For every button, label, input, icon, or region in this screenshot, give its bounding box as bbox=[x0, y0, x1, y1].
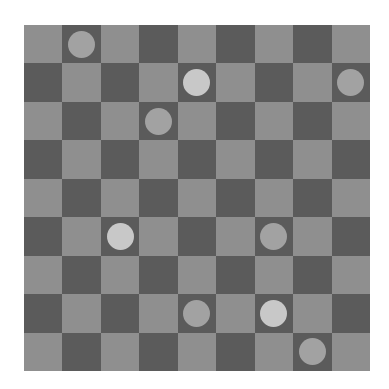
dark-square-r1-c4[interactable] bbox=[178, 63, 216, 101]
light-square-r3-c3[interactable] bbox=[139, 140, 177, 178]
dark-square-r5-c6[interactable] bbox=[255, 217, 293, 255]
dark-square-r5-c8[interactable] bbox=[332, 217, 370, 255]
light-square-r3-c1[interactable] bbox=[62, 140, 100, 178]
light-square-r2-c4[interactable] bbox=[178, 102, 216, 140]
dark-square-r0-c5[interactable] bbox=[216, 25, 254, 63]
dark-square-r7-c4[interactable] bbox=[178, 294, 216, 332]
light-square-r6-c8[interactable] bbox=[332, 256, 370, 294]
light-square-r6-c4[interactable] bbox=[178, 256, 216, 294]
light-square-r0-c0[interactable] bbox=[24, 25, 62, 63]
light-square-r2-c8[interactable] bbox=[332, 102, 370, 140]
dark-square-r7-c0[interactable] bbox=[24, 294, 62, 332]
dark-square-r8-c3[interactable] bbox=[139, 333, 177, 371]
light-square-r0-c2[interactable] bbox=[101, 25, 139, 63]
dark-square-r3-c0[interactable] bbox=[24, 140, 62, 178]
light-square-r3-c5[interactable] bbox=[216, 140, 254, 178]
dark-square-r3-c4[interactable] bbox=[178, 140, 216, 178]
dark-square-r5-c2[interactable] bbox=[101, 217, 139, 255]
light-square-r4-c4[interactable] bbox=[178, 179, 216, 217]
dark-square-r6-c5[interactable] bbox=[216, 256, 254, 294]
light-square-r4-c6[interactable] bbox=[255, 179, 293, 217]
dark-square-r7-c6[interactable] bbox=[255, 294, 293, 332]
dark-square-r4-c5[interactable] bbox=[216, 179, 254, 217]
light-square-r7-c5[interactable] bbox=[216, 294, 254, 332]
gray-piece[interactable] bbox=[260, 223, 287, 250]
dark-square-r4-c3[interactable] bbox=[139, 179, 177, 217]
light-square-r4-c2[interactable] bbox=[101, 179, 139, 217]
light-square-r2-c0[interactable] bbox=[24, 102, 62, 140]
gray-piece[interactable] bbox=[299, 338, 326, 365]
dark-square-r0-c1[interactable] bbox=[62, 25, 100, 63]
light-square-r1-c5[interactable] bbox=[216, 63, 254, 101]
dark-square-r3-c8[interactable] bbox=[332, 140, 370, 178]
light-square-r6-c2[interactable] bbox=[101, 256, 139, 294]
light-square-r4-c0[interactable] bbox=[24, 179, 62, 217]
dark-square-r1-c6[interactable] bbox=[255, 63, 293, 101]
light-square-r6-c6[interactable] bbox=[255, 256, 293, 294]
gray-piece[interactable] bbox=[337, 69, 364, 96]
dark-square-r3-c6[interactable] bbox=[255, 140, 293, 178]
dark-square-r7-c2[interactable] bbox=[101, 294, 139, 332]
dark-square-r0-c3[interactable] bbox=[139, 25, 177, 63]
light-square-r4-c8[interactable] bbox=[332, 179, 370, 217]
light-square-r3-c7[interactable] bbox=[293, 140, 331, 178]
dark-square-r2-c3[interactable] bbox=[139, 102, 177, 140]
gray-piece[interactable] bbox=[68, 31, 95, 58]
dark-square-r6-c1[interactable] bbox=[62, 256, 100, 294]
light-piece[interactable] bbox=[260, 300, 287, 327]
dark-square-r2-c5[interactable] bbox=[216, 102, 254, 140]
light-piece[interactable] bbox=[183, 69, 210, 96]
dark-square-r1-c0[interactable] bbox=[24, 63, 62, 101]
light-square-r6-c0[interactable] bbox=[24, 256, 62, 294]
game-board bbox=[24, 25, 370, 371]
dark-square-r0-c7[interactable] bbox=[293, 25, 331, 63]
dark-square-r8-c1[interactable] bbox=[62, 333, 100, 371]
dark-square-r5-c4[interactable] bbox=[178, 217, 216, 255]
light-square-r7-c7[interactable] bbox=[293, 294, 331, 332]
light-square-r2-c2[interactable] bbox=[101, 102, 139, 140]
dark-square-r5-c0[interactable] bbox=[24, 217, 62, 255]
light-square-r0-c6[interactable] bbox=[255, 25, 293, 63]
dark-square-r1-c8[interactable] bbox=[332, 63, 370, 101]
dark-square-r8-c7[interactable] bbox=[293, 333, 331, 371]
light-square-r0-c8[interactable] bbox=[332, 25, 370, 63]
light-square-r5-c3[interactable] bbox=[139, 217, 177, 255]
dark-square-r4-c1[interactable] bbox=[62, 179, 100, 217]
dark-square-r4-c7[interactable] bbox=[293, 179, 331, 217]
light-square-r5-c7[interactable] bbox=[293, 217, 331, 255]
dark-square-r1-c2[interactable] bbox=[101, 63, 139, 101]
dark-square-r3-c2[interactable] bbox=[101, 140, 139, 178]
light-square-r8-c4[interactable] bbox=[178, 333, 216, 371]
light-square-r8-c0[interactable] bbox=[24, 333, 62, 371]
light-square-r0-c4[interactable] bbox=[178, 25, 216, 63]
gray-piece[interactable] bbox=[145, 108, 172, 135]
dark-square-r6-c7[interactable] bbox=[293, 256, 331, 294]
light-square-r2-c6[interactable] bbox=[255, 102, 293, 140]
light-square-r5-c5[interactable] bbox=[216, 217, 254, 255]
light-piece[interactable] bbox=[107, 223, 134, 250]
dark-square-r6-c3[interactable] bbox=[139, 256, 177, 294]
light-square-r8-c2[interactable] bbox=[101, 333, 139, 371]
light-square-r1-c7[interactable] bbox=[293, 63, 331, 101]
light-square-r1-c3[interactable] bbox=[139, 63, 177, 101]
dark-square-r2-c1[interactable] bbox=[62, 102, 100, 140]
light-square-r8-c6[interactable] bbox=[255, 333, 293, 371]
dark-square-r2-c7[interactable] bbox=[293, 102, 331, 140]
dark-square-r8-c5[interactable] bbox=[216, 333, 254, 371]
light-square-r5-c1[interactable] bbox=[62, 217, 100, 255]
light-square-r7-c3[interactable] bbox=[139, 294, 177, 332]
dark-square-r7-c8[interactable] bbox=[332, 294, 370, 332]
light-square-r7-c1[interactable] bbox=[62, 294, 100, 332]
light-square-r8-c8[interactable] bbox=[332, 333, 370, 371]
gray-piece[interactable] bbox=[183, 300, 210, 327]
light-square-r1-c1[interactable] bbox=[62, 63, 100, 101]
